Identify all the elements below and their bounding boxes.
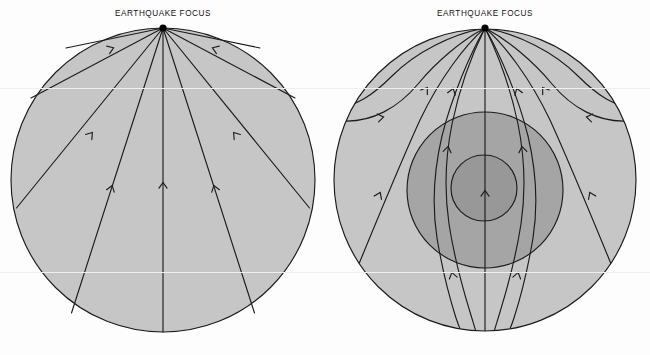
diagram-canvas [0, 0, 650, 355]
earthquake-focus-marker-left [159, 24, 166, 31]
inner-core-layer [451, 155, 517, 221]
panel-layered-earth [332, 28, 638, 334]
panel-title-homogeneous: EARTHQUAKE FOCUS [115, 9, 211, 18]
seismic-ray-path-figure: EARTHQUAKE FOCUS EARTHQUAKE FOCUS [0, 0, 650, 355]
panel-title-layered: EARTHQUAKE FOCUS [437, 9, 533, 18]
panel-homogeneous-earth [11, 28, 315, 332]
earthquake-focus-marker-right [481, 24, 488, 31]
